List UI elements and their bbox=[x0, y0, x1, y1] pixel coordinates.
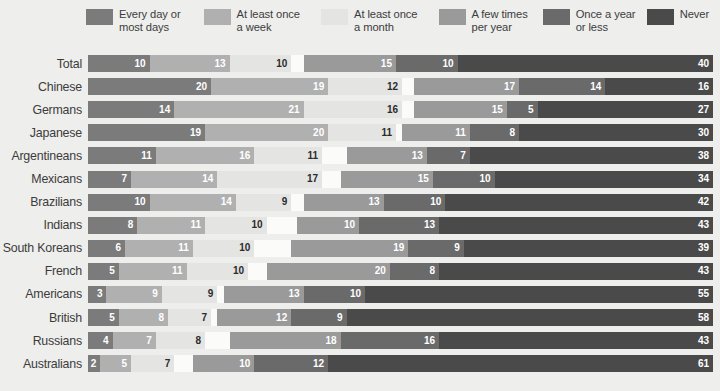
bar-segment[interactable]: 11 bbox=[88, 147, 156, 164]
bar-segment[interactable]: 11 bbox=[137, 217, 205, 234]
bar-segment[interactable]: 5 bbox=[88, 309, 119, 326]
legend-item[interactable]: At least once a week bbox=[204, 8, 318, 33]
bar-segment[interactable]: 16 bbox=[605, 78, 713, 95]
bar-segment[interactable]: 2 bbox=[88, 355, 100, 372]
bar-segment[interactable]: 7 bbox=[131, 355, 174, 372]
bar-segment-value: 7 bbox=[146, 336, 152, 346]
bar-segment[interactable]: 10 bbox=[297, 217, 359, 234]
bar-segment[interactable]: 8 bbox=[390, 263, 439, 280]
bar-segment[interactable]: 14 bbox=[88, 101, 174, 118]
bar-segment[interactable]: 10 bbox=[88, 55, 150, 72]
bar-segment[interactable]: 17 bbox=[217, 171, 322, 188]
bar-segment[interactable]: 43 bbox=[439, 332, 713, 349]
chart-row: Australians257101261 bbox=[0, 352, 720, 375]
bar-segment[interactable]: 13 bbox=[150, 55, 230, 72]
bar-segment[interactable]: 13 bbox=[359, 217, 439, 234]
bar-segment[interactable]: 7 bbox=[113, 332, 156, 349]
bar-segment[interactable]: 4 bbox=[88, 332, 113, 349]
bar-segment[interactable]: 39 bbox=[464, 240, 713, 257]
bar-segment[interactable]: 3 bbox=[88, 286, 106, 303]
bar-segment[interactable]: 11 bbox=[254, 147, 322, 164]
bar-segment[interactable]: 38 bbox=[470, 147, 713, 164]
bar-segment[interactable]: 14 bbox=[150, 194, 236, 211]
bar-segment[interactable]: 8 bbox=[470, 124, 519, 141]
bar-segment[interactable]: 14 bbox=[519, 78, 605, 95]
bar-segment[interactable]: 10 bbox=[230, 55, 292, 72]
bar-segment[interactable]: 20 bbox=[205, 124, 328, 141]
bar-segment[interactable]: 9 bbox=[408, 240, 463, 257]
bar-segment[interactable]: 20 bbox=[88, 78, 211, 95]
bar-segment[interactable]: 43 bbox=[439, 217, 713, 234]
legend-item[interactable]: Once a year or less bbox=[543, 8, 643, 33]
bar-segment[interactable]: 9 bbox=[291, 309, 346, 326]
bar-segment[interactable]: 15 bbox=[341, 171, 433, 188]
bar-segment[interactable]: 9 bbox=[162, 286, 217, 303]
bar-segment[interactable]: 10 bbox=[193, 355, 255, 372]
bar-segment-value: 11 bbox=[178, 243, 189, 253]
bar-segment[interactable]: 19 bbox=[88, 124, 205, 141]
bar-segment[interactable]: 27 bbox=[538, 101, 713, 118]
bar-segment[interactable]: 5 bbox=[507, 101, 538, 118]
bar-segment[interactable]: 10 bbox=[187, 263, 249, 280]
bar-segment[interactable]: 10 bbox=[396, 55, 458, 72]
bar-segment[interactable]: 8 bbox=[119, 309, 168, 326]
bar-segment[interactable]: 10 bbox=[433, 171, 495, 188]
bar-segment[interactable]: 11 bbox=[402, 124, 470, 141]
bar-segment[interactable]: 12 bbox=[254, 355, 328, 372]
bar-segment[interactable]: 7 bbox=[88, 171, 131, 188]
bar-segment[interactable]: 8 bbox=[88, 217, 137, 234]
bar-segment[interactable]: 43 bbox=[439, 263, 713, 280]
bar-segment[interactable]: 15 bbox=[414, 101, 506, 118]
bar-segment-value: 11 bbox=[307, 151, 318, 161]
bar-segment[interactable]: 12 bbox=[217, 309, 291, 326]
bar-segment[interactable]: 12 bbox=[328, 78, 402, 95]
bar-segment[interactable]: 15 bbox=[304, 55, 396, 72]
bar-segment[interactable]: 7 bbox=[427, 147, 470, 164]
bar-segment[interactable]: 58 bbox=[347, 309, 713, 326]
row-label: Australians bbox=[0, 357, 88, 371]
bar-segment[interactable]: 61 bbox=[328, 355, 713, 372]
stacked-bar: 257101261 bbox=[88, 355, 713, 372]
bar-segment[interactable]: 11 bbox=[119, 263, 187, 280]
bar-segment[interactable]: 9 bbox=[236, 194, 291, 211]
bar-segment[interactable]: 10 bbox=[304, 286, 366, 303]
bar-segment[interactable]: 55 bbox=[365, 286, 713, 303]
bar-segment[interactable]: 30 bbox=[519, 124, 713, 141]
bar-segment[interactable]: 19 bbox=[211, 78, 328, 95]
bar-segment[interactable]: 18 bbox=[230, 332, 341, 349]
bar-segment[interactable]: 42 bbox=[445, 194, 713, 211]
bar-segment[interactable]: 34 bbox=[495, 171, 713, 188]
bar-segment[interactable]: 21 bbox=[174, 101, 303, 118]
bar-segment[interactable]: 9 bbox=[106, 286, 161, 303]
bar-segment[interactable]: 16 bbox=[156, 147, 255, 164]
legend-item[interactable]: Never bbox=[647, 8, 716, 25]
bar-segment-value: 19 bbox=[393, 243, 404, 253]
bar-segment[interactable]: 13 bbox=[224, 286, 304, 303]
bar-segment[interactable]: 10 bbox=[193, 240, 255, 257]
bar-segment[interactable]: 16 bbox=[341, 332, 440, 349]
legend-item[interactable]: At least once a month bbox=[321, 8, 435, 33]
bar-segment-value: 19 bbox=[313, 82, 324, 92]
row-label: Chinese bbox=[0, 80, 88, 94]
legend-item[interactable]: Every day or most days bbox=[86, 8, 200, 33]
bar-segment[interactable]: 13 bbox=[304, 194, 384, 211]
bar-segment[interactable]: 11 bbox=[328, 124, 396, 141]
bar-segment[interactable]: 8 bbox=[156, 332, 205, 349]
bar-segment[interactable]: 20 bbox=[267, 263, 390, 280]
bar-segment[interactable]: 7 bbox=[168, 309, 211, 326]
bar-segment[interactable]: 5 bbox=[88, 263, 119, 280]
bar-segment[interactable]: 10 bbox=[384, 194, 446, 211]
bar-segment[interactable]: 5 bbox=[100, 355, 131, 372]
bar-segment[interactable]: 6 bbox=[88, 240, 125, 257]
bar-segment[interactable]: 10 bbox=[205, 217, 267, 234]
bar-segment[interactable]: 19 bbox=[291, 240, 408, 257]
bar-segment[interactable]: 14 bbox=[131, 171, 217, 188]
bar-segment[interactable]: 11 bbox=[125, 240, 193, 257]
bar-segment[interactable]: 40 bbox=[458, 55, 713, 72]
bar-segment-value: 19 bbox=[190, 128, 201, 138]
bar-segment[interactable]: 17 bbox=[414, 78, 519, 95]
bar-segment[interactable]: 10 bbox=[88, 194, 150, 211]
bar-segment[interactable]: 13 bbox=[347, 147, 427, 164]
bar-segment[interactable]: 16 bbox=[304, 101, 403, 118]
legend-item[interactable]: A few times per year bbox=[439, 8, 539, 33]
